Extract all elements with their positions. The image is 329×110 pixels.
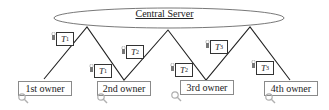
token-badge: T2 xyxy=(175,63,193,77)
owner-1-label: 1st owner xyxy=(25,83,64,94)
owner-3-label: 3rd owner xyxy=(187,82,228,93)
owner-2-label: 2nd owner xyxy=(103,83,146,94)
central-server-label: Central Server xyxy=(0,8,329,19)
magnifier-icon xyxy=(17,92,29,104)
token-badge: T3 xyxy=(256,61,274,75)
owner-3-box: 3rd owner xyxy=(180,80,234,95)
token-transfer-path xyxy=(44,27,290,80)
token-badge: T1 xyxy=(56,32,74,46)
magnifier-icon xyxy=(170,90,182,102)
token-badge: T1 xyxy=(94,64,112,78)
owner-4-label: 4th owner xyxy=(271,83,311,94)
token-badge: T3 xyxy=(210,40,228,54)
magnifier-icon xyxy=(264,92,276,104)
magnifier-icon xyxy=(96,92,108,104)
token-badge: T2 xyxy=(126,45,144,59)
